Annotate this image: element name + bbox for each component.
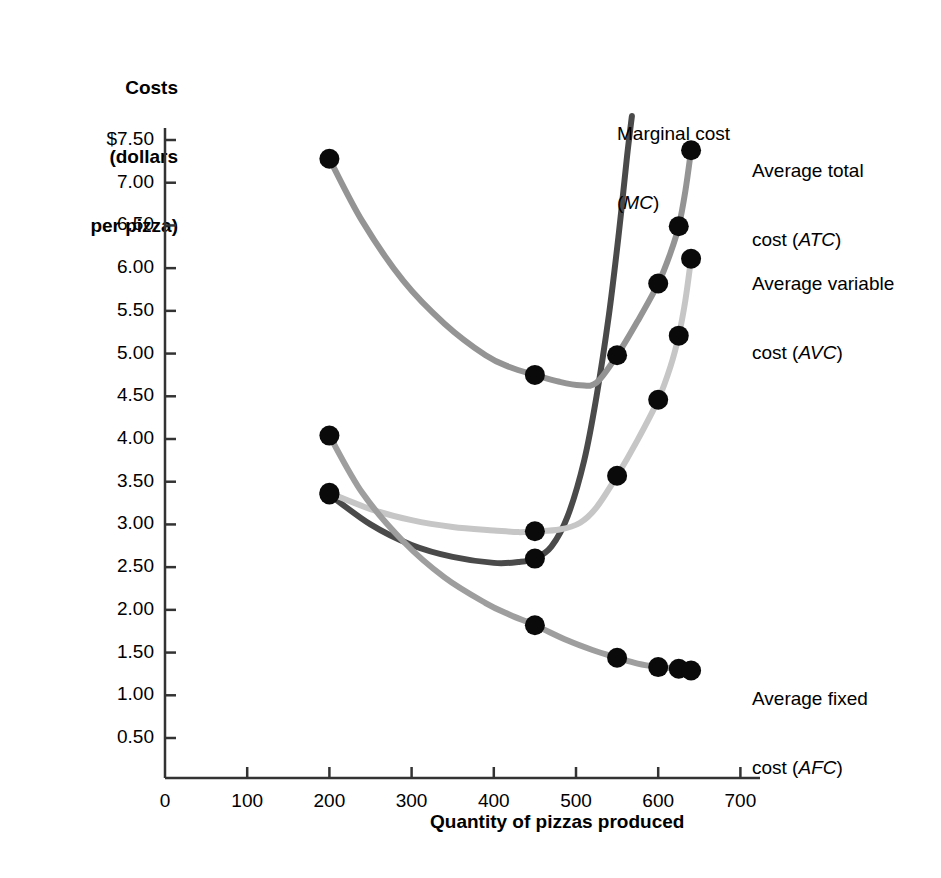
curve-label-avc-line2: cost (AVC) (752, 341, 894, 364)
y-axis-tick-label: 5.00 (62, 342, 154, 364)
y-axis-tick-label: 6.50 (62, 213, 154, 235)
data-point-afc (681, 661, 701, 681)
y-axis-tick-label: 3.00 (62, 512, 154, 534)
y-axis-tick-label: 4.50 (62, 384, 154, 406)
data-point-atc (648, 274, 668, 294)
x-axis-tick-label: 200 (294, 790, 364, 812)
y-axis-tick-label: 2.00 (62, 598, 154, 620)
curve-label-mc: Marginal cost (MC) (617, 76, 730, 260)
mc-abbr: MC (623, 192, 653, 213)
data-point-avc (319, 483, 339, 503)
curve-label-avc: Average variable cost (AVC) (752, 226, 894, 410)
curve-label-atc-line1: Average total (752, 159, 864, 182)
y-axis-ticks (165, 140, 176, 738)
data-point-atc (607, 345, 627, 365)
x-axis-tick-label: 300 (377, 790, 447, 812)
afc-prefix: cost ( (752, 757, 798, 778)
curve-label-afc-line2: cost (AFC) (752, 756, 868, 779)
mc-paren-close: ) (653, 192, 659, 213)
data-point-avc (648, 390, 668, 410)
curve-label-avc-line1: Average variable (752, 272, 894, 295)
y-axis-tick-label: 1.50 (62, 641, 154, 663)
y-axis-tick-label: 1.00 (62, 683, 154, 705)
data-point-afc (648, 657, 668, 677)
x-axis-tick-label: 600 (623, 790, 693, 812)
x-axis-tick-label: 0 (130, 790, 200, 812)
curve-label-mc-line2: (MC) (617, 191, 730, 214)
y-axis-tick-label: $7.50 (62, 128, 154, 150)
curve-mc (329, 116, 632, 563)
cost-curves-chart: Costs (dollars per pizza) Quantity of pi… (0, 0, 941, 878)
y-axis-tick-label: 0.50 (62, 726, 154, 748)
curve-label-afc: Average fixed cost (AFC) (752, 641, 868, 825)
curve-avc (329, 259, 691, 532)
avc-abbr: AVC (798, 342, 836, 363)
data-point-afc (319, 426, 339, 446)
y-axis-tick-label: 7.00 (62, 171, 154, 193)
data-point-afc (525, 615, 545, 635)
curve-label-mc-line1: Marginal cost (617, 122, 730, 145)
data-point-atc (525, 365, 545, 385)
afc-abbr: AFC (798, 757, 836, 778)
curve-label-afc-line1: Average fixed (752, 687, 868, 710)
x-axis-tick-label: 400 (459, 790, 529, 812)
x-axis-ticks (247, 767, 740, 778)
data-point-afc (607, 648, 627, 668)
avc-prefix: cost ( (752, 342, 798, 363)
data-point-mc (525, 549, 545, 569)
y-axis-tick-label: 5.50 (62, 299, 154, 321)
curve-afc (329, 436, 691, 671)
data-point-avc (669, 326, 689, 346)
afc-paren-close: ) (836, 757, 842, 778)
y-axis-tick-label: 2.50 (62, 555, 154, 577)
data-point-atc (319, 149, 339, 169)
data-point-avc (525, 521, 545, 541)
data-point-avc (607, 466, 627, 486)
y-axis-tick-label: 4.00 (62, 427, 154, 449)
x-axis-tick-label: 500 (541, 790, 611, 812)
avc-paren-close: ) (836, 342, 842, 363)
x-axis-tick-label: 100 (212, 790, 282, 812)
y-axis-tick-label: 3.50 (62, 470, 154, 492)
y-axis-tick-label: 6.00 (62, 256, 154, 278)
